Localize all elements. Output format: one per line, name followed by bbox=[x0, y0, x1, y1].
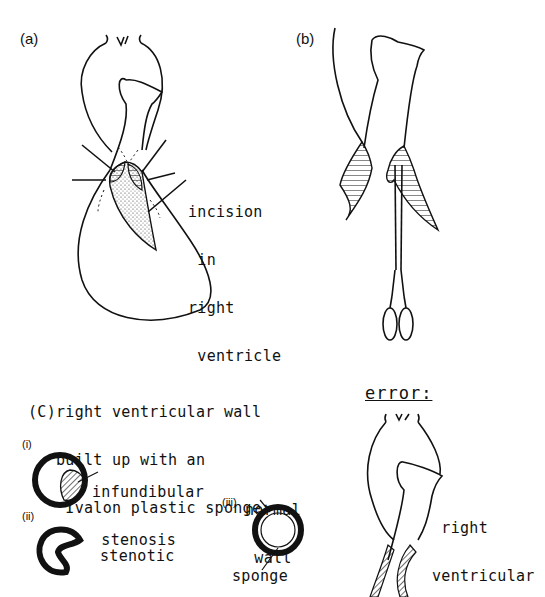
error-title: error: bbox=[365, 383, 432, 403]
collapsed-wall-heart-drawing bbox=[368, 414, 442, 560]
sub-iii-label: (iii) bbox=[222, 496, 237, 508]
normal-wall-annotation: normal wall bbox=[245, 470, 301, 582]
annotation-line: ventricle bbox=[188, 348, 281, 364]
collapsed-wall-left bbox=[370, 545, 394, 597]
annotation-line: normal bbox=[245, 502, 301, 518]
panel-a-label: (a) bbox=[20, 30, 38, 47]
annotation-line: infundibular bbox=[92, 484, 204, 500]
cross-section-collapsed bbox=[39, 530, 80, 573]
panel-b-label: (b) bbox=[296, 30, 314, 47]
sub-ii-label: (ii) bbox=[22, 510, 34, 522]
annotation-line: ventricular bbox=[432, 568, 545, 584]
incision-annotation: incision in right ventricle bbox=[188, 172, 281, 380]
annotation-line: right bbox=[432, 520, 545, 536]
sub-i-label: (i) bbox=[22, 438, 32, 450]
collapsed-annotation: stenotic portion removed, wall collapses bbox=[100, 516, 184, 597]
wall-right-hatched bbox=[387, 146, 438, 230]
collapsed-wall-right bbox=[397, 545, 416, 597]
annotation-line: wall bbox=[245, 550, 301, 566]
annotation-line: incision bbox=[188, 204, 281, 220]
annotation-line: right bbox=[188, 300, 281, 316]
annotation-line: in bbox=[188, 252, 281, 268]
annotation-line: stenotic bbox=[100, 548, 184, 564]
wall-left-hatched bbox=[340, 142, 372, 220]
error-annotation: right ventricular wall may collapse if n… bbox=[432, 488, 545, 597]
heading-line: (C)right ventricular wall bbox=[28, 404, 271, 420]
sponge-annotation: sponge bbox=[232, 568, 288, 584]
